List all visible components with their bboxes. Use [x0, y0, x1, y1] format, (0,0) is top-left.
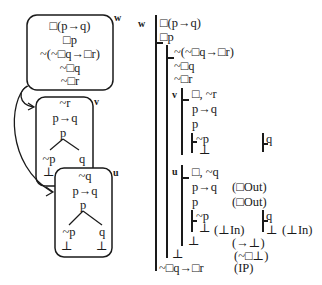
proof-line: p→q — [192, 103, 217, 116]
proof-u-bar — [181, 177, 189, 179]
w-formula: □p — [63, 34, 77, 47]
arrowhead-u — [46, 187, 53, 196]
proof-justification: (□Out) — [232, 181, 267, 194]
proof-line: ⊥ — [188, 235, 200, 248]
v-branch-right: q — [79, 153, 85, 166]
proof-line: p — [192, 196, 198, 209]
proof-line: ~(~□q→□r) — [174, 46, 234, 59]
proof-conclusion: ~□q→□r — [159, 262, 204, 275]
u-branch-left-closed: ⊥ — [61, 240, 73, 253]
proof-line: □(p→q) — [160, 17, 201, 30]
v-formula: p→q — [53, 112, 78, 125]
v-branch-left-closed: ⊥ — [43, 166, 55, 179]
proof-line: ⊥ — [199, 144, 211, 157]
proof-w-label: w — [138, 17, 145, 30]
w-formula: ~□r — [61, 75, 79, 88]
proof-justification: (⊥In) — [282, 224, 313, 237]
w-formula: ~(~□q→□r) — [40, 48, 100, 61]
proof-line: ⊥ — [199, 222, 211, 235]
proof-justification: (□Out) — [232, 196, 267, 209]
proof-line: ⊥ — [172, 248, 184, 261]
proof-v-case1-line — [191, 133, 193, 153]
u-branch-right-closed: ⊥ — [96, 240, 108, 253]
w-formula: □(p→q) — [50, 20, 91, 33]
proof-w-scope-line — [155, 15, 157, 271]
world-v-label: v — [94, 95, 99, 108]
u-branch-left: ~p — [62, 226, 75, 239]
proof-line: p — [192, 118, 198, 131]
v-tree-right-edge — [63, 139, 79, 150]
u-formula: p→q — [73, 185, 98, 198]
world-w-label: w — [114, 11, 121, 24]
proof-justification: (IP) — [234, 262, 253, 275]
proof-line: p→q — [192, 181, 217, 194]
v-tree-left-edge — [50, 139, 63, 150]
proof-line: □p — [160, 31, 174, 44]
world-u-label: u — [113, 166, 119, 179]
proof-line: ~□r — [174, 73, 192, 86]
proof-v-bar — [181, 99, 189, 101]
proof-v-label: v — [172, 88, 177, 101]
proof-line: □, ~r — [192, 88, 217, 101]
v-formula: ~r — [60, 97, 71, 110]
proof-u-label: u — [172, 165, 178, 178]
proof-line: q — [266, 210, 272, 223]
u-formula: p — [80, 199, 86, 212]
proof-line: □, ~q — [192, 166, 219, 179]
u-branch-right: q — [99, 226, 105, 239]
proof-ip-assumption-bar — [166, 57, 174, 59]
v-formula: p — [60, 127, 66, 140]
proof-ip-scope-line — [166, 45, 168, 258]
u-formula: ~q — [78, 170, 91, 183]
proof-line: ⊥ — [266, 224, 278, 237]
proof-line: q — [266, 133, 272, 146]
